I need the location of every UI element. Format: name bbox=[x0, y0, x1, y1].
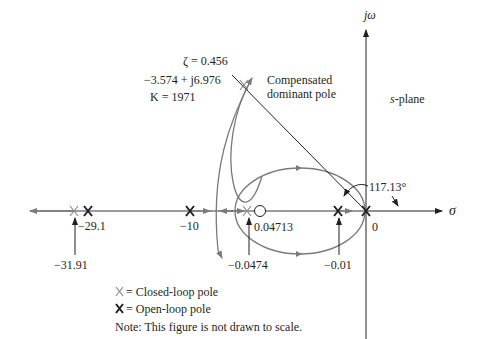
closed-pole-label-0-0474: −0.0474 bbox=[228, 258, 268, 272]
gain-label: K = 1971 bbox=[150, 90, 195, 104]
zero-label: 0.04713 bbox=[254, 220, 293, 234]
zeta-label: ζ = 0.456 bbox=[183, 54, 228, 68]
pole-label-29-1: −29.1 bbox=[78, 219, 106, 233]
root-locus-plot bbox=[0, 0, 478, 339]
legend-open-text: = Open-loop pole bbox=[126, 302, 211, 316]
open-loop-zero bbox=[255, 206, 266, 217]
plane-label: s-plane bbox=[390, 92, 425, 106]
scale-note: Note: This figure is not drawn to scale. bbox=[115, 320, 302, 334]
dominant-pole-caption-2: dominant pole bbox=[267, 87, 336, 101]
closed-pole-label-31-91: −31.91 bbox=[54, 258, 88, 272]
imag-axis-label: jω bbox=[364, 8, 376, 22]
pointer-arrows bbox=[75, 218, 339, 255]
dominant-pole-caption-1: Compensated bbox=[267, 73, 332, 87]
real-axis-label: σ bbox=[449, 204, 456, 218]
legend-closed-symbol bbox=[116, 287, 123, 296]
pole-label-10: −10 bbox=[180, 219, 199, 233]
legend-closed-text: = Closed-loop pole bbox=[126, 285, 218, 299]
pole-label-0-01: −0.01 bbox=[324, 258, 352, 272]
angle-label: 117.13° bbox=[369, 180, 406, 194]
dominant-pole-location: −3.574 + j6.976 bbox=[144, 73, 221, 87]
legend-open-symbol bbox=[116, 304, 123, 313]
pole-label-0: 0 bbox=[372, 220, 378, 234]
